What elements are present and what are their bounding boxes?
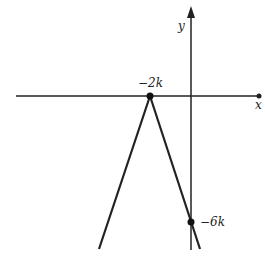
x-axis-label: x (255, 98, 262, 112)
y-intercept-label: −6k (200, 215, 225, 229)
vertex-point (147, 93, 154, 100)
y-intercept-point (188, 219, 195, 226)
left-branch (99, 96, 150, 249)
y-axis-arrow-icon (187, 6, 195, 18)
graph: y x −2k −6k (0, 0, 265, 256)
right-branch (150, 96, 200, 249)
y-axis-label: y (177, 19, 185, 33)
vertex-label: −2k (138, 76, 163, 90)
